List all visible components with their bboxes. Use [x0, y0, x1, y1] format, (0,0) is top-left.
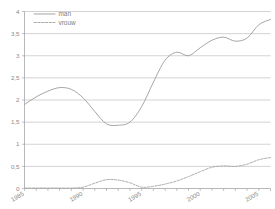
- y-axis-tick-label: 2,5: [11, 74, 20, 81]
- legend-label-vrouw: vrouw: [59, 19, 76, 26]
- line-chart: 00,511,522,533,54 19851990199520002005 m…: [0, 0, 275, 209]
- y-axis-tick-label: 2: [16, 96, 20, 103]
- data-series-group: [25, 19, 271, 188]
- y-axis-tick-label: 3: [16, 52, 20, 59]
- y-axis-tick-label: 3,5: [11, 30, 20, 37]
- y-axis-tick-label: 0,5: [11, 163, 20, 170]
- x-axis-labels-group: 19851990199520002005: [10, 190, 260, 203]
- series-line-vrouw: [25, 158, 271, 189]
- series-line-man: [25, 19, 271, 125]
- chart-canvas: 00,511,522,533,54 19851990199520002005 m…: [0, 0, 275, 209]
- chart-legend: manvrouw: [34, 10, 76, 26]
- x-axis-tick-label: 1990: [68, 190, 84, 203]
- x-axis-group: [25, 12, 271, 192]
- y-axis-labels-group: 00,511,522,533,54: [11, 8, 25, 192]
- x-axis-tick-label: 2000: [185, 190, 201, 203]
- x-axis-tick-label: 1985: [10, 190, 26, 203]
- legend-label-man: man: [59, 10, 72, 17]
- y-axis-tick-label: 1,5: [11, 118, 20, 125]
- x-axis-tick-label: 2005: [244, 190, 260, 203]
- gridlines-group: [25, 12, 271, 167]
- y-axis-tick-label: 4: [16, 8, 20, 15]
- x-axis-tick-label: 1995: [127, 190, 143, 203]
- y-axis-tick-label: 1: [16, 140, 20, 147]
